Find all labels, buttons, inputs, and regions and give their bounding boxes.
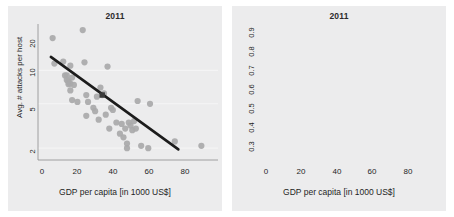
panel-title-right: 2011 bbox=[232, 11, 446, 21]
y-tick-right-0: 0.9 bbox=[246, 28, 256, 37]
data-point bbox=[80, 27, 86, 33]
data-point bbox=[83, 113, 89, 119]
y-tick-left-2: 5 bbox=[30, 105, 34, 114]
data-point bbox=[122, 125, 128, 131]
figure-container: 2011 Avg. # attacks per host 20 10 5 2 0… bbox=[0, 0, 454, 217]
data-point bbox=[104, 64, 110, 70]
y-tick-right-5: 0.4 bbox=[246, 123, 256, 132]
data-point bbox=[145, 145, 151, 151]
plot-area-left bbox=[42, 28, 212, 156]
panel-title-left: 2011 bbox=[8, 11, 222, 21]
data-point bbox=[113, 119, 119, 125]
y-tick-right-6: 0.3 bbox=[246, 142, 256, 151]
x-tick-left-3: 60 bbox=[141, 167, 157, 176]
data-point bbox=[50, 35, 56, 41]
x-tick-left-4: 80 bbox=[177, 167, 193, 176]
x-tick-left-1: 20 bbox=[69, 167, 85, 176]
x-tick-left-0: 0 bbox=[34, 167, 50, 176]
data-point bbox=[69, 97, 75, 103]
data-point bbox=[124, 145, 130, 151]
y-tick-right-1: 0.8 bbox=[246, 47, 256, 56]
data-point bbox=[135, 98, 141, 104]
data-point bbox=[120, 134, 126, 140]
data-point bbox=[110, 107, 116, 113]
data-point bbox=[103, 112, 109, 118]
x-tick-right-0: 0 bbox=[258, 167, 274, 176]
highlight-marker bbox=[100, 92, 105, 97]
data-point bbox=[85, 99, 91, 105]
x-tick-right-2: 40 bbox=[329, 167, 345, 176]
data-point bbox=[138, 143, 144, 149]
data-point bbox=[172, 138, 178, 144]
y-tick-left-0: 20 bbox=[28, 39, 36, 48]
y-tick-right-2: 0.7 bbox=[246, 66, 256, 75]
data-point bbox=[94, 94, 100, 100]
y-tick-right-4: 0.5 bbox=[246, 104, 256, 113]
data-point bbox=[83, 92, 89, 98]
x-tick-left-2: 40 bbox=[105, 167, 121, 176]
chart-panel-left: 2011 Avg. # attacks per host 20 10 5 2 0… bbox=[8, 6, 222, 211]
data-point bbox=[106, 125, 112, 131]
data-point bbox=[147, 101, 153, 107]
x-axis-title-right: GDP per capita [in 1000 US$] bbox=[232, 187, 446, 197]
x-axis-title-left: GDP per capita [in 1000 US$] bbox=[8, 187, 222, 197]
x-tick-right-3: 60 bbox=[364, 167, 380, 176]
y-tick-right-3: 0.6 bbox=[246, 85, 256, 94]
x-tick-right-4: 80 bbox=[400, 167, 416, 176]
y-tick-left-3: 2 bbox=[30, 147, 34, 156]
chart-panel-right: 2011 % attacked hosts 0.9 0.8 0.7 0.6 0.… bbox=[232, 6, 446, 211]
data-point bbox=[74, 99, 80, 105]
data-point bbox=[198, 143, 204, 149]
data-point bbox=[71, 82, 77, 88]
data-point bbox=[96, 117, 102, 123]
data-point bbox=[81, 59, 87, 65]
x-tick-right-1: 20 bbox=[293, 167, 309, 176]
data-point bbox=[67, 87, 73, 93]
data-point bbox=[133, 125, 139, 131]
data-point bbox=[92, 108, 98, 114]
y-tick-left-1: 10 bbox=[28, 68, 36, 77]
scatter-points bbox=[50, 27, 205, 151]
y-axis-title-left: Avg. # attacks per host bbox=[15, 37, 24, 118]
